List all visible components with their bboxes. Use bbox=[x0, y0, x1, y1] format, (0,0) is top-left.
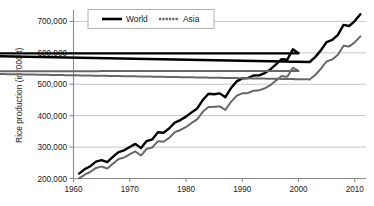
x-tick-label: 2000 bbox=[289, 185, 308, 194]
x-tick-label: 1980 bbox=[177, 185, 196, 194]
y-tick-label: 500,000 bbox=[37, 80, 67, 89]
y-tick-label: 200,000 bbox=[37, 175, 67, 184]
y-tick-label: 700,000 bbox=[37, 17, 67, 26]
legend-label-world: World bbox=[126, 14, 148, 24]
data-series-group bbox=[0, 14, 360, 178]
chart-canvas: 200,000300,000400,000500,000600,000700,0… bbox=[0, 0, 374, 206]
x-tick-label: 2010 bbox=[346, 185, 365, 194]
y-tick-label: 300,000 bbox=[37, 143, 67, 152]
y-axis-ticks: 200,000300,000400,000500,000600,000700,0… bbox=[37, 17, 73, 183]
rice-production-line-chart: 200,000300,000400,000500,000600,000700,0… bbox=[0, 0, 374, 206]
x-tick-label: 1990 bbox=[233, 185, 252, 194]
legend: WorldAsia bbox=[88, 10, 214, 29]
x-tick-label: 1970 bbox=[121, 185, 140, 194]
y-tick-label: 400,000 bbox=[37, 112, 67, 121]
legend-label-asia: Asia bbox=[183, 14, 200, 24]
y-axis-title: Rice production (in '000 t) bbox=[14, 48, 24, 143]
x-tick-label: 1960 bbox=[64, 185, 83, 194]
x-axis-ticks: 196019701980199020002010 bbox=[64, 179, 364, 194]
gridlines bbox=[74, 21, 367, 147]
